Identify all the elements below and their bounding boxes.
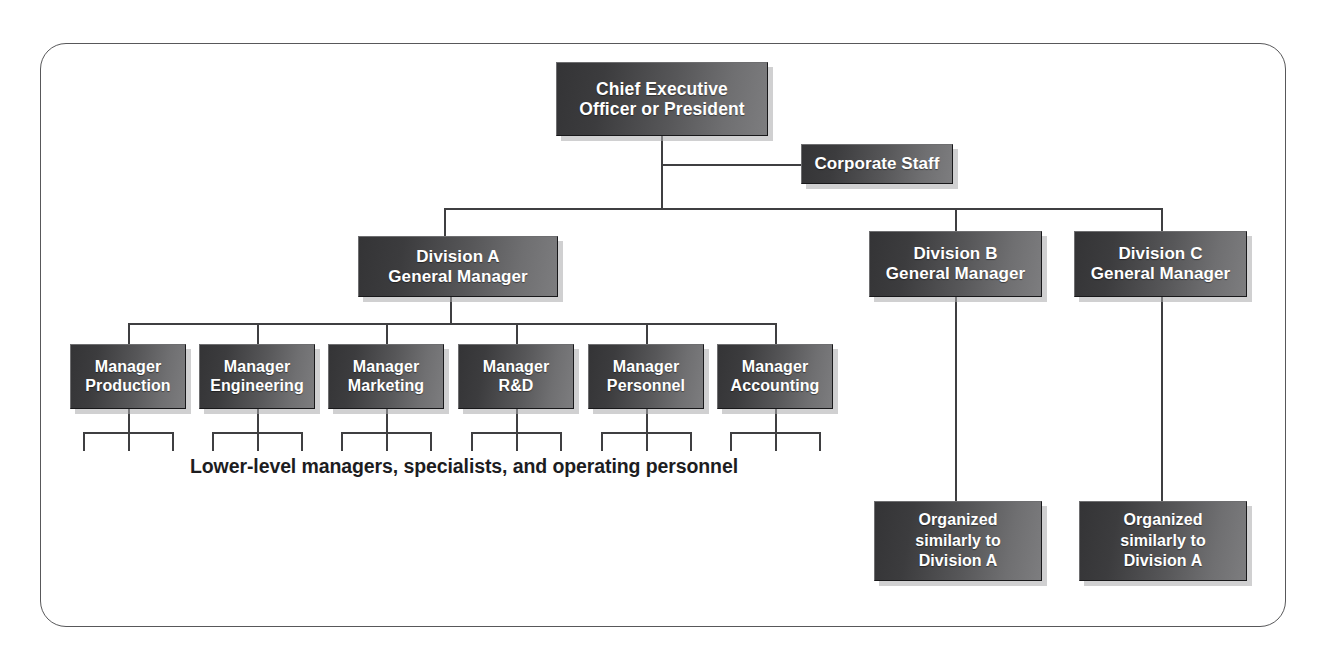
connector-drop-manager-2: [257, 323, 259, 344]
node-manager-marketing-line2: Marketing: [342, 377, 430, 396]
node-manager-accounting[interactable]: ManagerAccounting: [717, 344, 833, 409]
node-manager-marketing-line1: Manager: [342, 358, 430, 377]
connector-stem-personnel-3: [386, 409, 388, 433]
node-similar-division-b-text: Organizedsimilarly toDivision A: [903, 510, 1013, 572]
connector-manager-bus: [128, 323, 776, 325]
connector-drop-manager-4: [516, 323, 518, 344]
node-manager-personnel-line1: Manager: [601, 358, 691, 377]
node-corporate-staff-label: Corporate Staff: [808, 154, 945, 174]
node-manager-rnd-line2: R&D: [477, 377, 556, 396]
personnel-tick: [471, 432, 473, 451]
personnel-tick: [819, 432, 821, 451]
node-manager-marketing[interactable]: ManagerMarketing: [328, 344, 444, 409]
personnel-tick: [172, 432, 174, 451]
node-division-b-line2: General Manager: [880, 264, 1031, 284]
node-manager-production-line2: Production: [79, 377, 176, 396]
personnel-tick: [301, 432, 303, 451]
personnel-tick: [212, 432, 214, 451]
personnel-tick: [560, 432, 562, 451]
node-similar-division-b[interactable]: Organizedsimilarly toDivision A: [874, 501, 1042, 581]
node-similar-division-b-line1: Organized: [909, 510, 1007, 531]
node-similar-division-b-line2: similarly to: [909, 531, 1007, 552]
connector-division-a-stem: [450, 297, 452, 324]
personnel-tick: [430, 432, 432, 451]
node-manager-accounting-line2: Accounting: [725, 377, 826, 396]
connector-drop-division-a: [444, 208, 446, 236]
personnel-tick: [128, 432, 130, 451]
personnel-tick: [341, 432, 343, 451]
personnel-tick: [386, 432, 388, 451]
node-ceo-text: Chief ExecutiveOfficer or President: [567, 79, 756, 120]
node-similar-division-b-line3: Division A: [909, 551, 1007, 572]
node-similar-division-c-line3: Division A: [1114, 551, 1212, 572]
node-manager-personnel-line2: Personnel: [601, 377, 691, 396]
node-division-a-text: Division AGeneral Manager: [376, 247, 539, 286]
node-manager-engineering[interactable]: ManagerEngineering: [199, 344, 315, 409]
node-manager-production[interactable]: ManagerProduction: [70, 344, 186, 409]
node-manager-production-line1: Manager: [79, 358, 176, 377]
connector-stem-personnel-5: [646, 409, 648, 433]
personnel-tick: [730, 432, 732, 451]
connector-drop-manager-5: [646, 323, 648, 344]
node-division-c-text: Division CGeneral Manager: [1079, 244, 1242, 283]
node-division-c-line2: General Manager: [1085, 264, 1236, 284]
node-manager-production-text: ManagerProduction: [73, 358, 182, 395]
connector-stem-personnel-2: [257, 409, 259, 433]
node-division-a-line2: General Manager: [382, 267, 533, 287]
node-manager-marketing-text: ManagerMarketing: [336, 358, 436, 395]
personnel-tick: [257, 432, 259, 451]
connector-stem-personnel-6: [775, 409, 777, 433]
connector-stem-personnel-1: [128, 409, 130, 433]
node-ceo-line2: Officer or President: [573, 99, 750, 119]
node-manager-rnd[interactable]: ManagerR&D: [458, 344, 574, 409]
connector-division-bus: [444, 208, 1163, 210]
connector-division-b-to-similar: [955, 297, 957, 501]
node-division-c-line1: Division C: [1085, 244, 1236, 264]
connector-drop-manager-6: [775, 323, 777, 344]
personnel-tick: [83, 432, 85, 451]
node-manager-rnd-line1: Manager: [477, 358, 556, 377]
node-manager-engineering-line1: Manager: [204, 358, 310, 377]
node-division-b[interactable]: Division BGeneral Manager: [869, 231, 1042, 297]
node-manager-engineering-line2: Engineering: [204, 377, 310, 396]
node-manager-rnd-text: ManagerR&D: [471, 358, 562, 395]
connector-division-c-to-similar: [1161, 297, 1163, 501]
node-manager-personnel[interactable]: ManagerPersonnel: [588, 344, 704, 409]
node-division-b-text: Division BGeneral Manager: [874, 244, 1037, 283]
org-chart-canvas: Chief ExecutiveOfficer or President Corp…: [0, 0, 1322, 663]
connector-ceo-stem: [661, 136, 663, 209]
personnel-tick: [690, 432, 692, 451]
node-manager-personnel-text: ManagerPersonnel: [595, 358, 697, 395]
node-division-a-line1: Division A: [382, 247, 533, 267]
connector-drop-manager-3: [386, 323, 388, 344]
node-similar-division-c-text: Organizedsimilarly toDivision A: [1108, 510, 1218, 572]
connector-drop-manager-1: [128, 323, 130, 344]
node-ceo-line1: Chief Executive: [573, 79, 750, 99]
lower-level-personnel-caption: Lower-level managers, specialists, and o…: [190, 455, 738, 478]
node-division-c[interactable]: Division CGeneral Manager: [1074, 231, 1247, 297]
node-similar-division-c[interactable]: Organizedsimilarly toDivision A: [1079, 501, 1247, 581]
node-division-b-line1: Division B: [880, 244, 1031, 264]
node-corporate-staff[interactable]: Corporate Staff: [801, 144, 953, 184]
personnel-tick: [516, 432, 518, 451]
connector-drop-division-b: [955, 208, 957, 231]
node-manager-accounting-text: ManagerAccounting: [719, 358, 832, 395]
personnel-tick: [601, 432, 603, 451]
node-division-a[interactable]: Division AGeneral Manager: [358, 236, 558, 297]
connector-stem-personnel-4: [516, 409, 518, 433]
node-manager-accounting-line1: Manager: [725, 358, 826, 377]
connector-drop-division-c: [1161, 208, 1163, 231]
node-manager-engineering-text: ManagerEngineering: [198, 358, 316, 395]
node-similar-division-c-line1: Organized: [1114, 510, 1212, 531]
connector-ceo-to-corporate-staff: [661, 164, 802, 166]
personnel-tick: [775, 432, 777, 451]
personnel-tick: [646, 432, 648, 451]
node-ceo[interactable]: Chief ExecutiveOfficer or President: [556, 62, 768, 136]
node-similar-division-c-line2: similarly to: [1114, 531, 1212, 552]
